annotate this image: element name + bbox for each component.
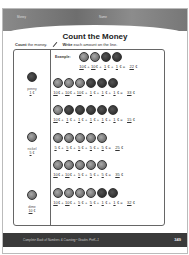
penny-coin-icon	[112, 52, 122, 62]
cent-sign: ¢	[93, 90, 95, 95]
silver-coin-icon	[79, 52, 89, 62]
penny-coin-icon	[86, 105, 96, 115]
coin-group	[53, 105, 163, 115]
silver-coin-icon	[64, 78, 74, 88]
cent-sign: ¢	[82, 145, 84, 150]
page-number: 349	[174, 237, 181, 242]
cent-sign: ¢	[70, 90, 72, 95]
total-answer[interactable]: 33	[126, 90, 133, 95]
penny-coin-icon	[108, 188, 118, 198]
total-answer[interactable]: 32	[126, 200, 133, 205]
silver-coin-icon	[64, 160, 74, 170]
silver-coin-icon	[53, 105, 63, 115]
worksheet-page: Money Name Count the Money Count the mon…	[2, 8, 188, 254]
coin-group	[53, 160, 163, 170]
reference-value: 5 ¢	[14, 151, 50, 155]
cent-sign: ¢	[93, 200, 95, 205]
footer-band: Complete Book of Numbers & Counting • Gr…	[3, 233, 187, 247]
cent-sign: ¢	[82, 200, 84, 205]
cent-sign: ¢	[82, 172, 84, 177]
instr-count-rest: the money.	[27, 42, 48, 47]
pencil-icon	[53, 42, 58, 47]
penny-coin-icon	[97, 105, 107, 115]
cent-sign: ¢	[70, 145, 72, 150]
cent-sign: ¢	[70, 172, 72, 177]
page-title: Count the Money	[3, 32, 187, 41]
cent-sign: ¢	[84, 64, 86, 69]
exercise-row: 10¢ + 1¢ + 1¢ + 1¢ + 1¢ + 1¢ = 15¢	[53, 105, 163, 122]
instructions: Count the money. Write each amount on th…	[15, 42, 117, 47]
cent-sign: ¢	[70, 117, 72, 122]
cent-sign: ¢	[133, 200, 135, 205]
silver-coin-icon	[53, 188, 63, 198]
cent-sign: ¢	[117, 117, 119, 122]
silver-coin-icon	[86, 133, 96, 143]
penny-coin-icon	[27, 72, 37, 82]
coin-group	[53, 133, 163, 143]
scan-top-margin	[0, 0, 189, 8]
silver-coin-icon	[97, 133, 107, 143]
coin-reference-column: penny 1 ¢ nickel 5 ¢ dime 10 ¢	[14, 50, 51, 225]
cent-sign: ¢	[70, 200, 72, 205]
silver-coin-icon	[53, 78, 63, 88]
cent-sign: ¢	[108, 64, 110, 69]
cent-sign: ¢	[82, 117, 84, 122]
coin-group	[53, 78, 163, 88]
cent-sign: ¢	[58, 172, 60, 177]
name-label: Name	[99, 15, 107, 19]
section-label: Money	[17, 15, 26, 19]
silver-coin-icon	[75, 133, 85, 143]
cent-sign: ¢	[105, 172, 107, 177]
silver-coin-icon	[75, 160, 85, 170]
exercise-column: Example: 10¢ + 10¢ + 1¢ + 1¢ = 22¢10¢ + …	[51, 50, 164, 225]
total-answer[interactable]: 25	[114, 145, 121, 150]
cent-sign: ¢	[58, 90, 60, 95]
cent-sign: ¢	[58, 145, 60, 150]
exercise-row: 10¢ + 10¢ + 5¢ + 5¢ + 1¢ + 1¢ = 32¢	[53, 188, 163, 205]
silver-coin-icon	[53, 160, 63, 170]
reference-value: 1 ¢	[14, 91, 50, 95]
exercise-frame: penny 1 ¢ nickel 5 ¢ dime 10 ¢ Example: …	[13, 49, 165, 226]
cent-sign: ¢	[105, 200, 107, 205]
coin-group	[53, 188, 163, 198]
exercise-row: 10¢ + 10¢ + 5¢ + 5¢ + 5¢ = 35¢	[53, 160, 163, 177]
cent-sign: ¢	[93, 145, 95, 150]
total-answer[interactable]: 15	[126, 117, 133, 122]
penny-coin-icon	[97, 188, 107, 198]
silver-coin-icon	[86, 160, 96, 170]
example-label: Example:	[55, 55, 71, 59]
exercise-row: 10¢ + 10¢ + 10¢ + 1¢ + 1¢ + 1¢ = 33¢	[53, 78, 163, 95]
sum-line: 10¢ + 1¢ + 1¢ + 1¢ + 1¢ + 1¢ = 15¢	[53, 117, 163, 122]
sum-line: 10¢ + 10¢ + 5¢ + 5¢ + 1¢ + 1¢ = 32¢	[53, 200, 163, 205]
dime-coin-icon	[27, 190, 37, 200]
silver-coin-icon	[86, 188, 96, 198]
example-row: 10¢ + 10¢ + 1¢ + 1¢ = 22¢	[79, 52, 189, 69]
silver-coin-icon	[53, 133, 63, 143]
sum-line: 10¢ + 10¢ + 1¢ + 1¢ = 22¢	[79, 64, 189, 69]
instr-write-bold: Write	[62, 42, 72, 47]
reference-nickel: nickel 5 ¢	[14, 128, 50, 155]
cent-sign: ¢	[96, 64, 98, 69]
cent-sign: ¢	[93, 117, 95, 122]
penny-coin-icon	[86, 78, 96, 88]
penny-coin-icon	[101, 52, 111, 62]
cent-sign: ¢	[58, 117, 60, 122]
cent-sign: ¢	[121, 145, 123, 150]
penny-coin-icon	[97, 78, 107, 88]
cent-sign: ¢	[105, 117, 107, 122]
penny-coin-icon	[108, 105, 118, 115]
silver-coin-icon	[90, 52, 100, 62]
cent-sign: ¢	[117, 90, 119, 95]
instr-count-bold: Count	[15, 42, 27, 47]
cent-sign: ¢	[133, 90, 135, 95]
coin-group	[79, 52, 189, 62]
cent-sign: ¢	[105, 145, 107, 150]
total-answer[interactable]: 35	[114, 172, 121, 177]
cent-sign: ¢	[82, 90, 84, 95]
sum-line: 5¢ + 5¢ + 5¢ + 5¢ + 5¢ = 25¢	[53, 145, 163, 150]
cent-sign: ¢	[105, 90, 107, 95]
silver-coin-icon	[64, 133, 74, 143]
exercise-row: 5¢ + 5¢ + 5¢ + 5¢ + 5¢ = 25¢	[53, 133, 163, 150]
cent-sign: ¢	[119, 64, 121, 69]
sum-line: 10¢ + 10¢ + 10¢ + 1¢ + 1¢ + 1¢ = 33¢	[53, 90, 163, 95]
